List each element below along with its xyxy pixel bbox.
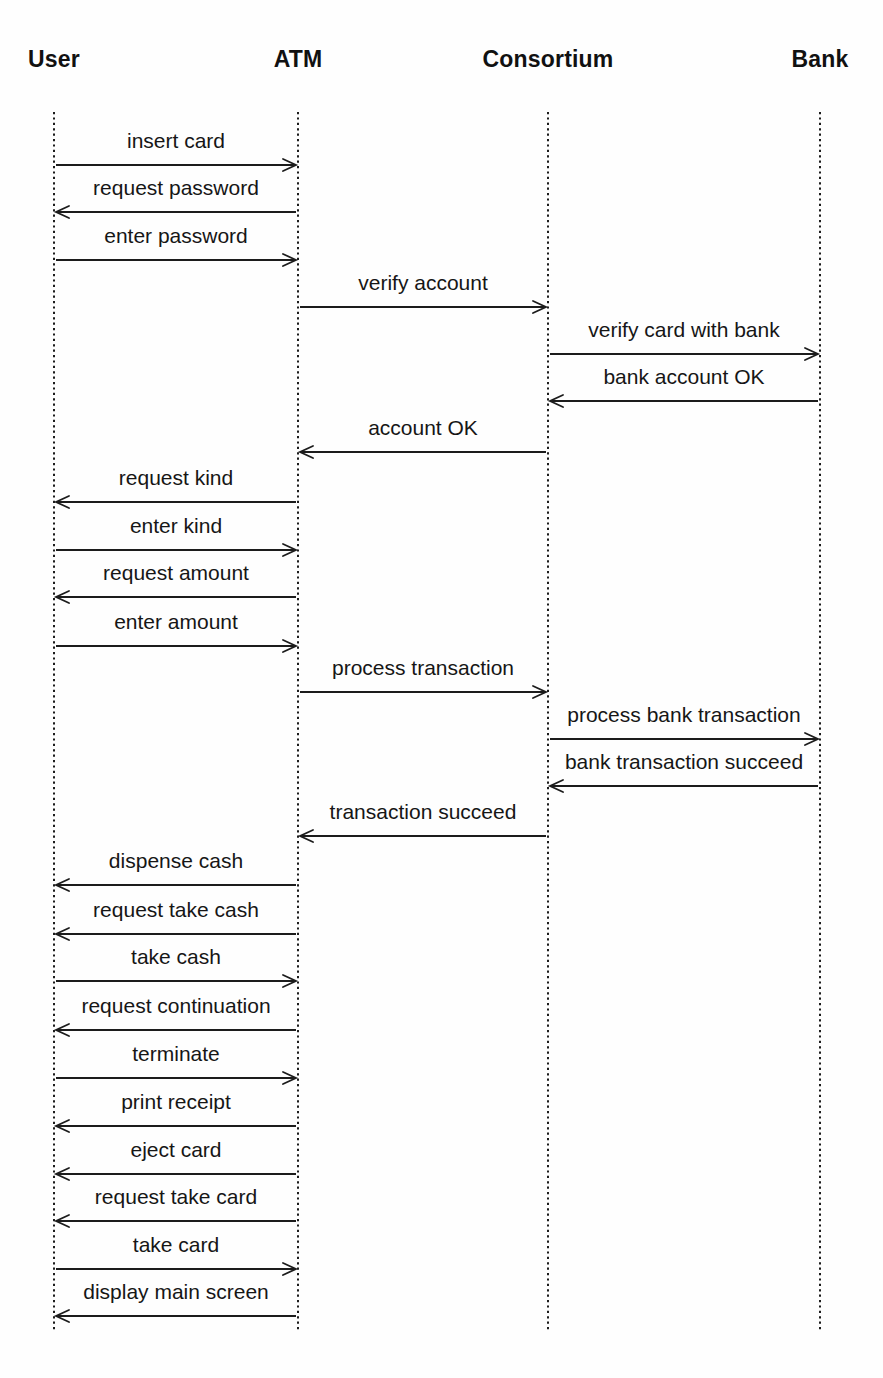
message-label: verify card with bank [548, 317, 820, 343]
message-label: take cash [54, 944, 298, 970]
actor-header-atm: ATM [274, 46, 323, 73]
message-label: request kind [54, 465, 298, 491]
message-label: verify account [298, 270, 548, 296]
message-label: process transaction [298, 655, 548, 681]
message-label: terminate [54, 1041, 298, 1067]
actor-header-consortium: Consortium [482, 46, 613, 73]
message-label: dispense cash [54, 848, 298, 874]
message-label: process bank transaction [548, 702, 820, 728]
message-label: eject card [54, 1137, 298, 1163]
actor-header-bank: Bank [791, 46, 848, 73]
message-label: insert card [54, 128, 298, 154]
message-label: print receipt [54, 1089, 298, 1115]
message-label: account OK [298, 415, 548, 441]
actor-header-user: User [28, 46, 80, 73]
message-label: request take card [54, 1184, 298, 1210]
message-label: bank transaction succeed [548, 749, 820, 775]
message-label: request take cash [54, 897, 298, 923]
message-label: request continuation [54, 993, 298, 1019]
message-label: display main screen [54, 1279, 298, 1305]
message-label: bank account OK [548, 364, 820, 390]
message-label: take card [54, 1232, 298, 1258]
message-label: request password [54, 175, 298, 201]
message-label: enter amount [54, 609, 298, 635]
message-label: enter password [54, 223, 298, 249]
message-label: request amount [54, 560, 298, 586]
message-label: enter kind [54, 513, 298, 539]
sequence-diagram: UserATMConsortiumBankinsert cardrequest … [0, 0, 883, 1378]
diagram-canvas [0, 0, 883, 1378]
message-label: transaction succeed [298, 799, 548, 825]
